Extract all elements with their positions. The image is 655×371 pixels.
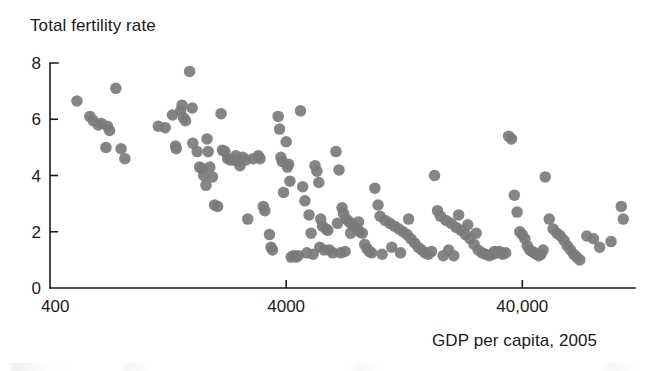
y-tick-label: 8 [32, 54, 41, 73]
y-tick-label: 0 [32, 279, 41, 298]
data-point [207, 171, 219, 183]
data-point [115, 143, 127, 155]
data-point [345, 227, 357, 239]
data-point [301, 247, 313, 259]
y-tick-label-group: 02468 [32, 54, 41, 298]
data-point [202, 146, 214, 158]
data-point [537, 244, 549, 256]
data-point [335, 247, 347, 259]
data-point [369, 182, 381, 194]
y-tick-marks [50, 119, 58, 232]
data-point [110, 83, 122, 95]
data-point [333, 164, 345, 176]
scatter-plot-canvas: 02468 400400040,000 [0, 0, 655, 371]
x-tick-label-group: 400400040,000 [41, 297, 548, 316]
data-point [297, 181, 309, 193]
y-tick-label: 4 [32, 167, 41, 186]
data-point [264, 229, 276, 241]
data-point-group [71, 66, 629, 266]
data-point [104, 125, 116, 137]
y-tick-label: 2 [32, 223, 41, 242]
data-point [574, 254, 586, 266]
x-axis-title: GDP per capita, 2005 [432, 331, 597, 351]
data-point [176, 99, 188, 111]
data-point [511, 206, 523, 218]
data-point [462, 219, 474, 231]
data-point [215, 108, 227, 120]
data-point [191, 146, 203, 158]
data-point [470, 227, 482, 239]
data-point [299, 195, 311, 207]
scan-artifact-smudge [0, 363, 655, 371]
data-point [313, 177, 325, 189]
data-point [280, 136, 292, 148]
data-point [376, 249, 388, 261]
data-point [311, 166, 323, 178]
data-point [295, 105, 307, 117]
data-point [366, 247, 378, 259]
x-tick-label: 40,000 [496, 297, 548, 316]
data-point [429, 170, 441, 182]
data-point [539, 171, 551, 183]
data-point [506, 133, 518, 145]
data-point [543, 213, 555, 225]
data-point [605, 236, 617, 248]
data-point [201, 133, 213, 145]
data-point [357, 227, 369, 239]
data-point [254, 153, 266, 165]
data-point [274, 123, 286, 135]
data-point [283, 159, 295, 171]
data-point [489, 246, 501, 258]
data-point [594, 241, 606, 253]
data-point [278, 187, 290, 199]
data-point [332, 218, 344, 230]
data-point [180, 115, 192, 127]
data-point [372, 199, 384, 211]
data-point [443, 244, 455, 256]
x-tick-marks [286, 280, 522, 288]
data-point [184, 66, 196, 78]
data-point [259, 205, 271, 217]
fertility-vs-gdp-scatter-figure: Total fertility rate 02468 400400040,000… [0, 0, 655, 371]
data-point [616, 201, 628, 213]
data-point [159, 122, 171, 134]
data-point [100, 142, 112, 154]
data-point [119, 153, 130, 165]
data-point [272, 111, 284, 123]
data-point [242, 213, 254, 225]
data-point [509, 189, 521, 201]
data-point [330, 146, 342, 158]
data-point [212, 201, 224, 213]
data-point [322, 225, 334, 237]
data-point [403, 213, 415, 225]
data-point [186, 102, 198, 114]
x-tick-label: 400 [41, 297, 69, 316]
data-point [617, 213, 629, 225]
y-tick-label: 6 [32, 110, 41, 129]
data-point [204, 161, 216, 173]
data-point [314, 241, 326, 253]
data-point [500, 247, 512, 259]
data-point [426, 246, 438, 258]
data-point [305, 227, 317, 239]
data-point [386, 241, 398, 253]
data-point [453, 209, 465, 221]
x-tick-label: 4000 [267, 297, 305, 316]
data-point [303, 209, 315, 221]
data-point [267, 244, 279, 256]
data-point [71, 95, 83, 107]
data-point [284, 175, 296, 187]
data-point [171, 143, 183, 155]
data-point [353, 216, 365, 228]
